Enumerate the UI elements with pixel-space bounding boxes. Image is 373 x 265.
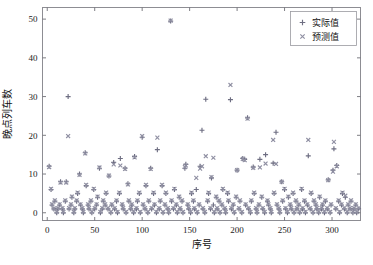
cross-marker (194, 176, 198, 180)
cross-marker (211, 156, 215, 160)
cross-marker (204, 154, 208, 158)
plus-marker (194, 187, 199, 192)
plus-marker (199, 128, 204, 133)
x-axis-title: 序号 (192, 238, 212, 250)
cross-marker (229, 83, 233, 87)
plus-marker (274, 130, 279, 135)
x-tick-label: 200 (230, 225, 244, 235)
x-tick-label: 150 (183, 225, 197, 235)
x-tick-label: 300 (325, 225, 339, 235)
plus-marker (257, 157, 262, 162)
chart-figure: 05010015020025030001020304050 序号晚点列车数 实际… (0, 0, 373, 265)
cross-marker (306, 138, 310, 142)
cross-marker (258, 165, 262, 169)
plus-marker (155, 147, 160, 152)
cross-marker (155, 136, 159, 140)
x-tick-label: 100 (135, 225, 149, 235)
cross-marker (332, 140, 336, 144)
plus-marker (263, 152, 268, 157)
y-tick-label: 0 (33, 208, 38, 218)
plus-marker (203, 97, 208, 102)
series-predicted (47, 19, 360, 214)
plus-marker (331, 146, 336, 151)
cross-marker (271, 138, 275, 142)
y-tick-label: 50 (29, 14, 39, 24)
y-tick-label: 40 (29, 53, 39, 63)
cross-marker (66, 134, 70, 138)
legend-label-2[interactable]: 预测值 (312, 31, 339, 42)
scatter-plot-svg: 05010015020025030001020304050 序号晚点列车数 实际… (0, 0, 373, 265)
x-tick-label: 0 (45, 225, 50, 235)
plus-marker (118, 156, 123, 161)
cross-marker (264, 162, 268, 166)
y-tick-label: 10 (29, 169, 39, 179)
x-tick-label: 50 (90, 225, 100, 235)
plus-marker (66, 94, 71, 99)
x-tick-label: 250 (278, 225, 292, 235)
series-actual (47, 19, 361, 216)
legend-label-1[interactable]: 实际值 (312, 17, 339, 28)
y-tick-label: 30 (29, 92, 39, 102)
y-tick-label: 20 (29, 131, 39, 141)
y-axis-title: 晚点列车数 (1, 89, 13, 139)
chart-legend[interactable]: 实际值预测值 (291, 12, 357, 46)
cross-marker (118, 164, 122, 168)
cross-marker (274, 162, 278, 166)
plus-marker (228, 97, 233, 102)
data-points (47, 19, 361, 216)
plus-marker (306, 153, 311, 158)
